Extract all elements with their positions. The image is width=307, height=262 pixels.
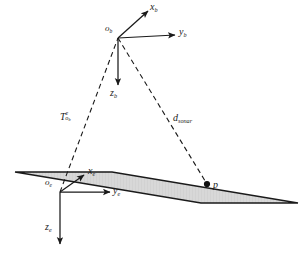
sonar-range-line [118,38,207,184]
body-y-axis [118,35,175,38]
earth-y-axis-label: ye [113,186,120,196]
body-y-axis-label: yb [179,27,187,37]
earth-frame-origin-label: oe [45,178,52,187]
transform-label: T e ob [60,112,66,122]
body-z-axis-label: zb [110,88,117,98]
sonar-distance-label: dsonar [173,113,192,123]
body-frame-origin-label: ob [105,24,112,33]
target-point-marker [204,181,210,187]
earth-z-axis-label: ze [45,222,52,232]
earth-x-axis-label: xe [88,166,95,176]
ground-plane [15,172,298,203]
target-point-label: p [213,180,218,190]
body-x-axis-label: xb [150,2,158,12]
coordinate-frame-diagram: xb yb zb ob xe ye ze oe T e ob dsonar p [0,0,307,262]
body-x-axis [118,11,148,38]
